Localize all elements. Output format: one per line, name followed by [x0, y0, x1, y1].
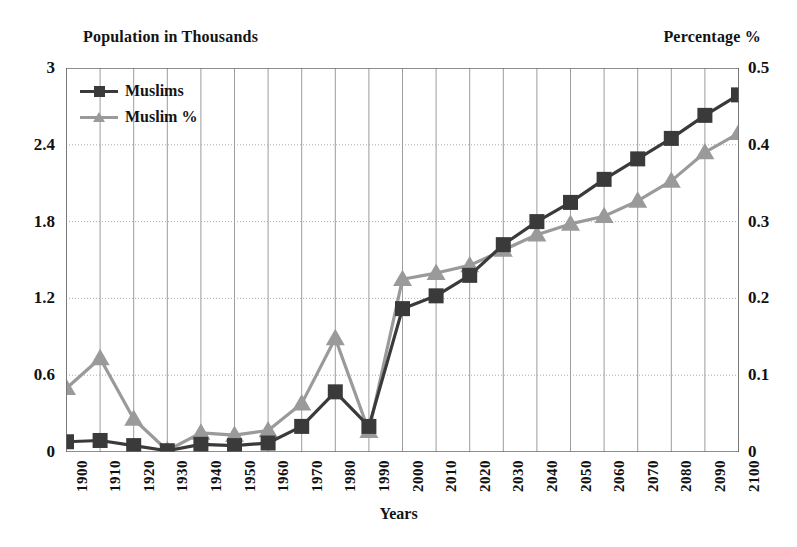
- x-axis-tick-label: 2090: [712, 460, 729, 492]
- data-point-marker-square: [160, 443, 175, 452]
- chart-legend: MuslimsMuslim %: [80, 78, 215, 130]
- left-axis-tick-label: 0: [47, 443, 56, 460]
- data-point-marker-square: [563, 195, 578, 210]
- x-axis-tick-label: 2060: [611, 460, 628, 492]
- chart-container: Population in Thousands Percentage % 00.…: [0, 0, 797, 547]
- data-point-marker-square: [429, 288, 444, 303]
- x-axis-tick-label: 1990: [376, 460, 393, 492]
- right-axis-title: Percentage %: [663, 28, 761, 46]
- data-point-marker-square: [597, 172, 612, 187]
- x-axis-title: Years: [0, 505, 797, 523]
- data-point-marker-square: [261, 436, 276, 451]
- data-point-marker-square: [395, 301, 410, 316]
- right-axis-tick-label: 0.2: [748, 289, 769, 306]
- data-point-marker-square: [529, 214, 544, 229]
- right-axis-tick-label: 0.5: [748, 59, 769, 76]
- x-axis-tick-label: 1980: [342, 460, 359, 492]
- x-axis-tick-label: 2040: [544, 460, 561, 492]
- right-axis-tick-label: 0.3: [748, 213, 769, 230]
- legend-marker-triangle-icon: [93, 112, 105, 122]
- x-axis-tick-label: 2080: [678, 460, 695, 492]
- data-point-marker-square: [664, 131, 679, 146]
- x-axis-tick-label: 2020: [477, 460, 494, 492]
- data-point-marker-square: [294, 419, 309, 434]
- right-axis-tick-label: 0: [748, 443, 757, 460]
- left-axis-tick-label: 3: [47, 59, 56, 76]
- left-axis-title: Population in Thousands: [83, 28, 258, 46]
- x-axis-tick-label: 1920: [141, 460, 158, 492]
- data-point-marker-square: [93, 433, 108, 448]
- x-axis-tick-label: 2010: [443, 460, 460, 492]
- data-point-marker-triangle: [628, 191, 647, 207]
- data-point-marker-triangle: [326, 329, 345, 345]
- data-point-marker-square: [731, 87, 739, 102]
- data-point-marker-square: [630, 151, 645, 166]
- data-point-marker-square: [496, 237, 511, 252]
- data-point-marker-triangle: [695, 143, 714, 159]
- data-point-marker-square: [462, 268, 477, 283]
- legend-item[interactable]: Muslims: [80, 78, 215, 104]
- x-axis-tick-label: 1950: [242, 460, 259, 492]
- x-axis-tick-label: 1940: [208, 460, 225, 492]
- x-axis-tick-label: 2000: [410, 460, 427, 492]
- legend-item-label: Muslim %: [125, 108, 197, 126]
- legend-marker-square-icon: [94, 86, 105, 97]
- x-axis-tick-label: 2050: [578, 460, 595, 492]
- left-axis-tick-label: 0.6: [34, 366, 55, 383]
- left-axis-tick-label: 2.4: [34, 136, 55, 153]
- legend-item[interactable]: Muslim %: [80, 104, 215, 130]
- x-axis-tick-label: 1900: [74, 460, 91, 492]
- data-point-marker-square: [697, 108, 712, 123]
- x-axis-tick-label: 1970: [309, 460, 326, 492]
- left-axis-tick-label: 1.8: [34, 213, 55, 230]
- data-point-marker-square: [361, 419, 376, 434]
- data-point-marker-triangle: [124, 409, 143, 425]
- x-axis-tick-label: 2030: [510, 460, 527, 492]
- data-point-marker-triangle: [729, 124, 739, 140]
- legend-swatch: [80, 83, 118, 99]
- x-axis-tick-label: 1910: [107, 460, 124, 492]
- x-axis-tick-label: 1960: [275, 460, 292, 492]
- data-point-marker-square: [193, 437, 208, 452]
- data-point-marker-square: [66, 434, 74, 449]
- legend-swatch: [80, 109, 118, 125]
- right-axis-tick-label: 0.4: [748, 136, 769, 153]
- legend-item-label: Muslims: [125, 82, 184, 100]
- right-axis-tick-label: 0.1: [748, 366, 769, 383]
- x-axis-tick-label: 2100: [746, 460, 763, 492]
- data-point-marker-triangle: [292, 394, 311, 410]
- data-point-marker-square: [328, 384, 343, 399]
- data-point-marker-square: [126, 438, 141, 452]
- data-point-marker-square: [227, 438, 242, 452]
- left-axis-tick-label: 1.2: [34, 289, 55, 306]
- x-axis-tick-label: 2070: [645, 460, 662, 492]
- data-point-marker-triangle: [91, 349, 110, 365]
- x-axis-tick-label: 1930: [174, 460, 191, 492]
